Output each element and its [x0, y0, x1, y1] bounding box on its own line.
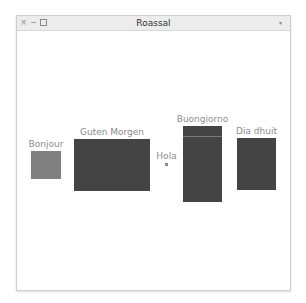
box-bonjour[interactable]	[31, 151, 61, 179]
box-dia-dhuit[interactable]	[237, 138, 276, 190]
box-guten-morgen[interactable]	[74, 139, 150, 191]
box-hola[interactable]	[165, 163, 168, 166]
title-bar[interactable]: × − Roassal ▾	[17, 16, 290, 31]
label-guten-morgen: Guten Morgen	[80, 127, 144, 137]
label-bonjour: Bonjour	[29, 139, 64, 149]
window-menu-icon[interactable]: ▾	[277, 19, 284, 26]
label-buongiorno: Buongiorno	[177, 114, 229, 124]
label-hola: Hola	[156, 151, 176, 161]
window-title: Roassal	[17, 17, 290, 29]
label-dia-dhuit: Dia dhuit	[236, 126, 277, 136]
buongiorno-separator	[183, 136, 222, 137]
box-buongiorno[interactable]	[183, 126, 222, 202]
